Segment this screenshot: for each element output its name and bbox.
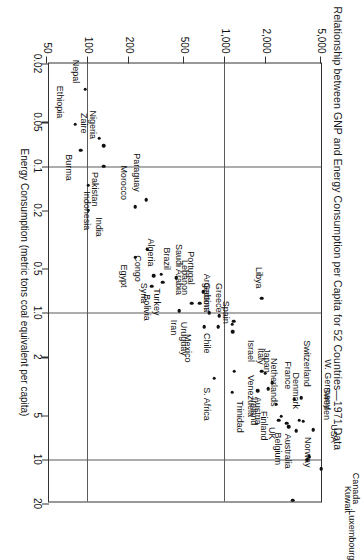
- data-point: [150, 284, 153, 287]
- data-point: [274, 402, 277, 405]
- gridline-vertical: [49, 166, 321, 167]
- data-point-label: Brazil: [162, 247, 171, 270]
- data-point: [159, 272, 162, 275]
- data-point-label: Australia: [283, 433, 292, 468]
- data-point: [175, 276, 178, 279]
- data-point-label: Ethiopia: [55, 85, 64, 118]
- y-tick-label: 100: [83, 36, 94, 53]
- y-tick-label: 200: [124, 36, 135, 53]
- data-point-label: Israel: [246, 340, 255, 362]
- x-tick-label: 0.5: [32, 261, 43, 275]
- x-tick-label: 0.2: [32, 203, 43, 217]
- data-point-label: Nepal: [71, 59, 80, 83]
- y-tick: [224, 56, 225, 63]
- y-tick-label: 500: [179, 36, 190, 53]
- data-point: [285, 421, 288, 424]
- data-point-label: USA: [329, 424, 338, 443]
- data-point-label: Switzerland: [302, 340, 311, 387]
- data-point: [97, 136, 100, 139]
- data-point: [256, 388, 259, 391]
- data-point: [217, 325, 220, 328]
- plot-area: 0.020.050.10.20.51.0251020 501002005001,…: [48, 62, 322, 502]
- data-point-label: Congo: [133, 255, 142, 282]
- data-point: [230, 390, 233, 393]
- y-tick-label: 1,000: [220, 28, 231, 53]
- data-point-label: Luxembourg: [347, 510, 356, 560]
- data-point: [301, 419, 304, 422]
- x-tick-label: 1.0: [32, 305, 43, 319]
- data-point: [260, 369, 263, 372]
- data-point: [264, 371, 267, 374]
- data-point-label: Indonesia: [82, 191, 91, 230]
- data-point: [312, 428, 315, 431]
- data-point-label: Iran: [169, 319, 178, 335]
- data-point: [133, 255, 136, 258]
- gridline-vertical: [49, 312, 321, 313]
- data-point: [198, 301, 201, 304]
- data-point-label: Venezuela: [246, 375, 255, 417]
- data-point: [293, 397, 296, 400]
- x-tick: [42, 312, 49, 313]
- data-point: [73, 122, 76, 125]
- data-point: [102, 144, 105, 147]
- x-tick: [42, 268, 49, 269]
- data-point-label: Turkey: [152, 288, 161, 315]
- data-point: [232, 369, 235, 372]
- data-point-label: Libya: [254, 266, 263, 288]
- data-point-label: Italy: [256, 348, 265, 365]
- data-point-label: France: [283, 361, 292, 389]
- data-point-label: Bolivia: [142, 294, 151, 321]
- x-tick: [42, 459, 49, 460]
- data-point: [161, 280, 164, 283]
- x-tick: [42, 503, 49, 504]
- data-point: [297, 418, 300, 421]
- data-point: [79, 148, 82, 151]
- data-point-label: Nigeria: [88, 110, 97, 139]
- data-point-label: S. Africa: [202, 387, 211, 421]
- y-tick: [265, 56, 266, 63]
- data-point-label: Greece: [214, 283, 223, 313]
- data-point-label: Norway: [303, 436, 312, 467]
- y-tick: [128, 56, 129, 63]
- x-tick-label: 0.02: [32, 53, 43, 72]
- chart-title: Relationship between GNP and Energy Cons…: [332, 6, 344, 450]
- data-point: [133, 205, 136, 208]
- data-point-label: Zaire: [79, 113, 88, 134]
- data-point: [260, 296, 263, 299]
- data-point-label: Trinidad: [235, 400, 244, 432]
- data-point: [145, 198, 148, 201]
- data-point: [207, 310, 210, 313]
- gridline-horizontal: [224, 63, 225, 501]
- y-tick: [46, 56, 47, 63]
- data-point-label: Egypt: [119, 264, 128, 287]
- x-tick-label: 0.05: [32, 112, 43, 131]
- x-tick-label: 20: [32, 497, 43, 508]
- data-point: [277, 418, 280, 421]
- x-tick-label: 2: [32, 354, 43, 360]
- data-point-label: W. Germany: [323, 359, 332, 409]
- y-tick-label: 2,000: [261, 28, 272, 53]
- y-tick: [183, 56, 184, 63]
- data-point-label: Kuwait: [343, 485, 352, 512]
- x-tick: [42, 356, 49, 357]
- x-tick: [42, 210, 49, 211]
- data-point: [146, 247, 149, 250]
- data-point: [287, 425, 290, 428]
- data-point: [230, 322, 233, 325]
- data-point-label: India: [94, 217, 103, 237]
- data-point: [212, 376, 215, 379]
- data-point: [202, 325, 205, 328]
- x-tick: [42, 415, 49, 416]
- data-point: [291, 498, 294, 501]
- x-tick-label: 10: [32, 453, 43, 464]
- data-point: [102, 164, 105, 167]
- data-point: [319, 467, 322, 470]
- data-point: [87, 183, 90, 186]
- x-tick: [42, 121, 49, 122]
- data-point-label: Algeria: [146, 238, 155, 266]
- x-tick-label: 5: [32, 412, 43, 418]
- data-point: [177, 309, 180, 312]
- y-tick: [87, 56, 88, 63]
- data-point-label: Chile: [202, 332, 211, 353]
